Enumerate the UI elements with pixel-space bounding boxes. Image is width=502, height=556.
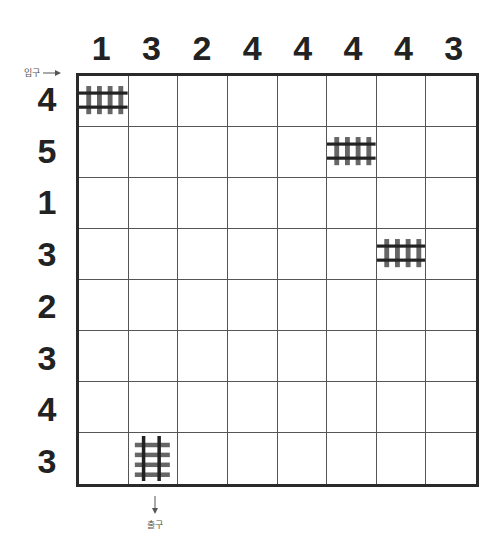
- grid-cell[interactable]: [129, 382, 179, 433]
- grid-cell[interactable]: [377, 76, 427, 127]
- grid-cell[interactable]: [426, 229, 476, 280]
- grid-cell[interactable]: [377, 280, 427, 331]
- track-rail: [79, 106, 128, 109]
- grid-cell[interactable]: [426, 382, 476, 433]
- exit-marker: 출구: [145, 496, 165, 531]
- grid-cell[interactable]: [426, 331, 476, 382]
- grid-cell[interactable]: [178, 178, 228, 229]
- grid-cell[interactable]: [278, 280, 328, 331]
- grid-cell[interactable]: [426, 433, 476, 484]
- row-clue: 5: [22, 131, 72, 171]
- track-rail: [79, 91, 128, 94]
- track-sleeper: [86, 86, 91, 114]
- grid-cell[interactable]: [178, 229, 228, 280]
- grid-cell[interactable]: [129, 127, 179, 178]
- grid-cell[interactable]: [129, 280, 179, 331]
- grid-cell[interactable]: [426, 76, 476, 127]
- column-clue: 3: [429, 28, 479, 68]
- grid-cell[interactable]: [278, 229, 328, 280]
- grid-cell[interactable]: [278, 382, 328, 433]
- grid-cell[interactable]: [327, 382, 377, 433]
- grid-cell[interactable]: [377, 229, 427, 280]
- grid-cell[interactable]: [228, 127, 278, 178]
- grid-cell[interactable]: [129, 76, 179, 127]
- arrow-down-icon: [151, 496, 159, 514]
- column-clue: 4: [378, 28, 428, 68]
- arrow-right-icon: [43, 69, 61, 77]
- grid-cell[interactable]: [426, 127, 476, 178]
- grid-cell[interactable]: [377, 433, 427, 484]
- exit-label: 출구: [147, 518, 163, 531]
- column-clue: 2: [177, 28, 227, 68]
- grid-cell[interactable]: [327, 229, 377, 280]
- grid-cell[interactable]: [79, 127, 129, 178]
- grid-cell[interactable]: [327, 280, 377, 331]
- grid-cell[interactable]: [228, 76, 278, 127]
- grid-cell[interactable]: [426, 178, 476, 229]
- grid-cell[interactable]: [178, 76, 228, 127]
- row-clue: 4: [22, 79, 72, 119]
- grid-cell[interactable]: [377, 382, 427, 433]
- grid-cell[interactable]: [377, 331, 427, 382]
- column-clue: 4: [278, 28, 328, 68]
- track-sleeper: [97, 86, 102, 114]
- grid-cell[interactable]: [178, 433, 228, 484]
- track-icon: [377, 232, 426, 276]
- grid-cell[interactable]: [129, 229, 179, 280]
- grid-cell[interactable]: [327, 331, 377, 382]
- grid-cell[interactable]: [178, 127, 228, 178]
- grid-cell[interactable]: [129, 433, 179, 484]
- track-rail: [377, 244, 426, 247]
- grid-cell[interactable]: [79, 331, 129, 382]
- grid-cell[interactable]: [278, 433, 328, 484]
- row-clue: 3: [22, 234, 72, 274]
- grid-cell[interactable]: [129, 178, 179, 229]
- track-icon: [129, 436, 178, 481]
- track-sleeper: [384, 239, 389, 267]
- grid-cell[interactable]: [278, 178, 328, 229]
- grid-cell[interactable]: [79, 178, 129, 229]
- track-sleeper: [134, 453, 169, 458]
- grid-cell[interactable]: [278, 331, 328, 382]
- grid-cell[interactable]: [178, 280, 228, 331]
- grid-cell[interactable]: [327, 178, 377, 229]
- row-clue: 2: [22, 286, 72, 326]
- grid-cell[interactable]: [377, 178, 427, 229]
- column-clue: 4: [328, 28, 378, 68]
- track-sleeper: [118, 86, 123, 114]
- grid-cell[interactable]: [79, 229, 129, 280]
- grid-cell[interactable]: [278, 127, 328, 178]
- grid-cell[interactable]: [178, 382, 228, 433]
- grid-cell[interactable]: [327, 76, 377, 127]
- given-track-horizontal: [79, 79, 128, 123]
- track-sleeper: [134, 472, 169, 477]
- column-clue: 1: [76, 28, 126, 68]
- track-sleeper: [367, 137, 372, 165]
- grid-cell[interactable]: [327, 127, 377, 178]
- track-sleeper: [395, 239, 400, 267]
- track-rail: [377, 259, 426, 262]
- grid-cell[interactable]: [79, 433, 129, 484]
- grid-cell[interactable]: [129, 331, 179, 382]
- grid-cell[interactable]: [377, 127, 427, 178]
- grid-cell[interactable]: [228, 331, 278, 382]
- column-clue: 4: [227, 28, 277, 68]
- given-track-vertical: [129, 436, 178, 481]
- grid-cell[interactable]: [228, 229, 278, 280]
- grid-cell[interactable]: [426, 280, 476, 331]
- grid-cell[interactable]: [79, 76, 129, 127]
- track-sleeper: [405, 239, 410, 267]
- grid-cell[interactable]: [79, 280, 129, 331]
- row-clue: 3: [22, 338, 72, 378]
- grid-cell[interactable]: [228, 433, 278, 484]
- track-sleeper: [134, 443, 169, 448]
- grid-cell[interactable]: [178, 331, 228, 382]
- grid-cell[interactable]: [228, 178, 278, 229]
- grid-cell[interactable]: [228, 280, 278, 331]
- track-sleeper: [356, 137, 361, 165]
- grid-cell[interactable]: [228, 382, 278, 433]
- grid-cell[interactable]: [278, 76, 328, 127]
- grid-cell[interactable]: [79, 382, 129, 433]
- track-sleeper: [416, 239, 421, 267]
- grid-cell[interactable]: [327, 433, 377, 484]
